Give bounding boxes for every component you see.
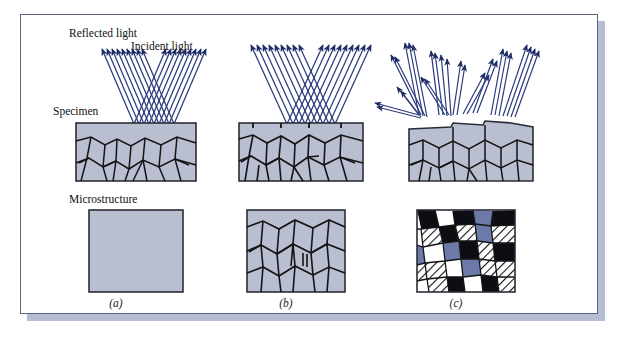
panel-c-caption: (c) (361, 297, 551, 309)
panel-b-graphic (191, 15, 381, 315)
microstructure-square-b (247, 210, 345, 292)
panel-a-caption: (a) (21, 297, 211, 309)
specimen-block-c (409, 121, 533, 181)
specimen-block-b (239, 123, 363, 181)
microstructure-square-c (417, 210, 515, 292)
panel-b: (b) (191, 15, 381, 315)
microstructure-square-a (89, 210, 183, 292)
panel-c: (c) (361, 15, 551, 315)
panel-a: Reflected light Incident light Specimen … (21, 15, 211, 315)
panel-b-caption: (b) (191, 297, 381, 309)
specimen-block-a (76, 123, 196, 181)
panel-a-graphic (21, 15, 211, 315)
figure-frame: Reflected light Incident light Specimen … (20, 14, 598, 314)
scattered-rays-c (375, 43, 539, 118)
panel-c-graphic (361, 15, 551, 315)
contrast-grains-c (417, 210, 515, 292)
